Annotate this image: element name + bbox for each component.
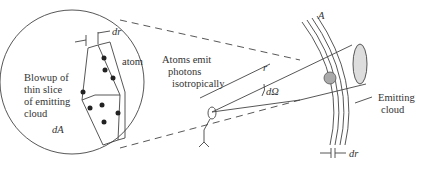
- emitting-cloud-line: Emitting: [378, 92, 415, 104]
- blowup-label: Blowup of thin slice of emitting cloud: [24, 72, 70, 120]
- A-label: A: [318, 10, 324, 22]
- atoms-emit-line: photons: [162, 66, 225, 78]
- r-label: r: [263, 62, 267, 74]
- atom-label: atom: [122, 56, 143, 68]
- emitting-cloud-line: cloud: [378, 104, 415, 116]
- blowup-line: of emitting: [24, 96, 70, 108]
- blowup-line: cloud: [24, 108, 70, 120]
- dr-top-label: dr: [112, 26, 121, 38]
- atoms-emit-line: Atoms emit: [162, 54, 225, 66]
- blowup-line: thin slice: [24, 84, 70, 96]
- atoms-emit-label: Atoms emit photons isotropically: [162, 54, 225, 90]
- emitting-cloud-label: Emitting cloud: [378, 92, 415, 116]
- dA-label: dA: [52, 124, 64, 136]
- dOmega-label: dΩ: [266, 86, 279, 98]
- atoms-emit-line: isotropically: [162, 78, 225, 90]
- blowup-line: Blowup of: [24, 72, 70, 84]
- atom-sphere: [324, 72, 336, 84]
- dr-bottom-label: dr: [349, 148, 358, 160]
